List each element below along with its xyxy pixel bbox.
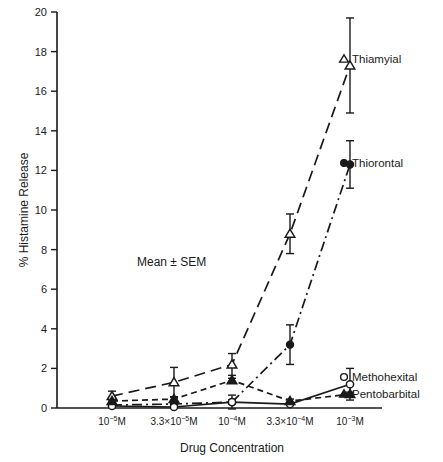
y-tick-label-10: 10 — [35, 204, 47, 216]
y-axis-ticks — [51, 12, 57, 408]
y-tick-label-18: 18 — [35, 46, 47, 58]
datapoint-methohexital-1 — [170, 403, 177, 410]
series-label-pentobarbital: Pentobarbital — [352, 388, 420, 400]
y-tick-label-20: 20 — [35, 6, 47, 18]
x-tick-label-2: 10−4M — [218, 415, 245, 427]
y-tick-label-16: 16 — [35, 85, 47, 97]
y-tick-label-6: 6 — [41, 283, 47, 295]
series-errorbars-group — [108, 18, 354, 409]
series-label-methohexital: Methohexital — [352, 371, 417, 383]
x-tick-label-0: 10−5M — [98, 415, 125, 427]
legend-marker-thiorontal — [341, 160, 348, 167]
datapoint-thiamyial-2 — [227, 360, 237, 368]
chart-canvas: 02468101214161820 10−5M3.3×10−5M10−4M3.3… — [0, 0, 443, 462]
datapoint-pentobarbital-2 — [227, 376, 237, 384]
datapoint-methohexital-2 — [228, 398, 235, 405]
x-tick-label-1: 3.3×10−5M — [150, 415, 197, 427]
y-axis-tick-labels: 02468101214161820 — [35, 6, 47, 414]
series-lines-group — [112, 65, 350, 407]
axes-group — [57, 12, 382, 408]
x-tick-label-3: 3.3×10−4M — [266, 415, 313, 427]
series-label-thiorontal: Thiorontal — [352, 157, 403, 169]
x-tick-label-4: 10−3M — [336, 415, 363, 427]
legend-marker-thiamyial — [340, 55, 349, 62]
series-markers-group — [107, 55, 355, 411]
datapoint-thiorontal-3 — [286, 341, 293, 348]
legend-marker-methohexital — [341, 374, 348, 381]
y-tick-label-14: 14 — [35, 125, 47, 137]
datapoint-thiamyial-3 — [285, 229, 295, 237]
mean-sem-annotation: Mean ± SEM — [137, 255, 206, 269]
x-axis-tick-labels: 10−5M3.3×10−5M10−4M3.3×10−4M10−3M — [98, 415, 363, 427]
y-tick-label-8: 8 — [41, 244, 47, 256]
y-tick-label-12: 12 — [35, 164, 47, 176]
x-axis-title: Drug Concentration — [180, 441, 284, 455]
y-tick-label-4: 4 — [41, 323, 47, 335]
y-axis-title: % Histamine Release — [17, 152, 31, 267]
series-line-thiamyial — [112, 65, 350, 396]
series-line-thiorontal — [112, 164, 350, 405]
histamine-release-chart: 02468101214161820 10−5M3.3×10−5M10−4M3.3… — [0, 0, 443, 462]
y-tick-label-0: 0 — [41, 402, 47, 414]
series-label-thiamyial: Thiamyial — [352, 53, 401, 65]
datapoint-thiamyial-1 — [169, 378, 179, 386]
y-tick-label-2: 2 — [41, 362, 47, 374]
